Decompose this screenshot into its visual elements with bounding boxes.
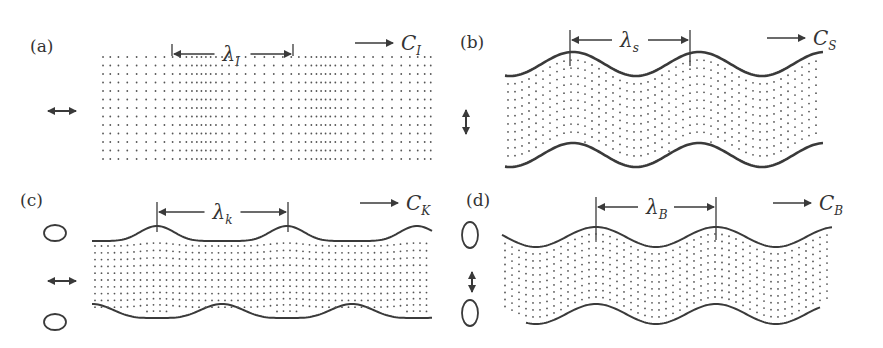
panel-label: (d)	[466, 190, 490, 210]
panel-label: (c)	[20, 190, 43, 210]
top-surface	[92, 226, 432, 241]
wave-speed-label: CB	[819, 191, 843, 218]
wave-diagram: (a)λICI(b)λsCS(c)λkCK(d)λBCB	[0, 0, 883, 348]
rotation-circle-icon	[462, 222, 478, 248]
panel-label: (a)	[30, 36, 53, 56]
wavelength-label: λs	[619, 28, 639, 55]
rotation-circle-icon	[462, 300, 478, 326]
panel-d: (d)λBCB	[462, 190, 843, 326]
panel-a: (a)λICI	[30, 31, 432, 160]
bottom-surface	[505, 143, 823, 167]
rotation-circle-icon	[44, 314, 66, 330]
wave-speed-label: CI	[401, 31, 421, 58]
panel-label: (b)	[460, 32, 484, 52]
wave-speed-label: CS	[813, 26, 837, 53]
top-surface	[505, 52, 823, 76]
bottom-surface	[92, 304, 432, 318]
wavelength-label: λk	[212, 200, 233, 227]
wavelength-label: λB	[645, 195, 668, 222]
top-surface	[502, 227, 832, 247]
rotation-circle-icon	[44, 225, 66, 241]
panel-c: (c)λkCK	[20, 190, 432, 330]
wave-speed-label: CK	[406, 191, 431, 218]
panel-b: (b)λsCS	[460, 26, 837, 167]
